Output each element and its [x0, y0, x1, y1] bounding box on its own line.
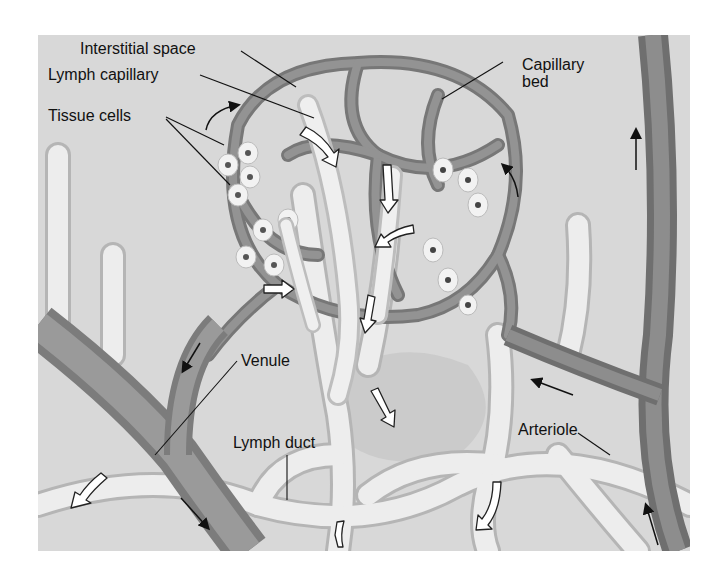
leader-arteriole — [578, 433, 610, 455]
label-interstitial-space: Interstitial space — [80, 40, 196, 57]
label-venule: Venule — [241, 352, 290, 369]
venule — [38, 325, 248, 551]
leader-tissue-cell-2 — [166, 119, 230, 185]
label-capillary-bed-line2: bed — [522, 73, 584, 90]
leader-lymph-capillary — [200, 75, 314, 118]
lymph-duct-network — [38, 155, 690, 551]
label-capillary-bed-line1: Capillary — [522, 56, 584, 73]
label-lymph-duct: Lymph duct — [233, 434, 315, 451]
label-tissue-cells: Tissue cells — [48, 107, 131, 124]
label-capillary-bed: Capillary bed — [522, 56, 584, 90]
label-arteriole: Arteriole — [518, 421, 578, 438]
lymph-capillary-diagram: Interstitial space Lymph capillary Tissu… — [38, 35, 690, 551]
leader-tissue-cell-1 — [166, 117, 224, 145]
label-lymph-capillary: Lymph capillary — [48, 66, 159, 83]
diagram-artwork — [38, 35, 690, 551]
arrow-arteriole-branch — [533, 380, 573, 395]
